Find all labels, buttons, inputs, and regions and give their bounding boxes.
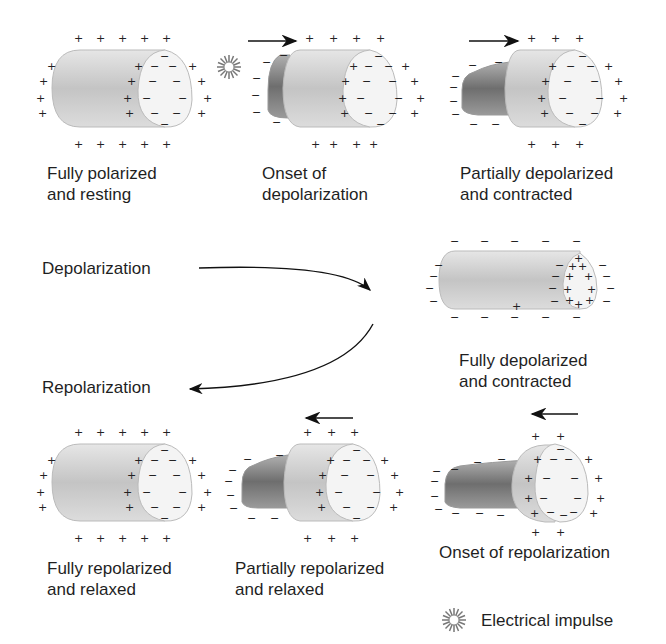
label-fully-depolarized: Fully depolarizedand contracted [459, 350, 588, 392]
svg-text:−: − [578, 118, 587, 131]
svg-text:+: + [125, 501, 134, 514]
svg-text:−: − [473, 456, 482, 469]
svg-text:−: − [449, 81, 458, 94]
svg-text:−: − [150, 501, 159, 514]
svg-text:−: − [434, 503, 443, 516]
svg-text:+: + [197, 501, 206, 514]
svg-text:+: + [380, 454, 389, 467]
label-fully-repolarized: Fully repolarizedand relaxed [47, 558, 172, 600]
svg-text:−: − [586, 60, 595, 73]
svg-text:+: + [123, 92, 132, 105]
svg-text:−: − [429, 295, 438, 308]
svg-text:+: + [96, 138, 105, 151]
svg-text:−: − [384, 60, 393, 73]
svg-text:−: − [252, 106, 261, 119]
svg-text:−: − [172, 75, 181, 88]
svg-text:−: − [475, 507, 484, 520]
svg-text:−: − [595, 92, 604, 105]
svg-text:−: − [148, 75, 157, 88]
svg-text:+: + [531, 430, 540, 443]
svg-text:+: + [311, 138, 320, 151]
svg-text:+: + [36, 486, 45, 499]
label-partially-depolarized: Partially depolarizedand contracted [460, 163, 613, 205]
svg-text:−: − [449, 95, 458, 108]
svg-text:−: − [229, 502, 238, 515]
repolarization-arrow [190, 324, 373, 389]
svg-text:−: − [178, 486, 187, 499]
svg-text:−: − [388, 107, 397, 120]
svg-text:−: − [559, 509, 568, 522]
label-fully-polarized: Fully polarizedand resting [47, 163, 157, 205]
svg-text:−: − [565, 107, 574, 120]
svg-text:−: − [573, 492, 582, 505]
label-onset-depolarization: Onset ofdepolarization [262, 163, 368, 205]
svg-text:+: + [96, 532, 105, 545]
svg-text:+: + [369, 138, 378, 151]
svg-text:−: − [550, 295, 559, 308]
svg-text:+: + [512, 300, 521, 313]
svg-text:−: − [430, 490, 439, 503]
svg-text:+: + [329, 138, 338, 151]
svg-text:−: − [270, 512, 279, 525]
svg-text:+: + [376, 32, 385, 45]
svg-text:+: + [556, 526, 565, 539]
svg-text:+: + [416, 92, 425, 105]
starburst-icon [217, 55, 241, 79]
label-partially-repolarized: Partially repolarizedand relaxed [235, 558, 384, 600]
svg-text:+: + [584, 453, 593, 466]
svg-text:+: + [395, 486, 404, 499]
svg-text:−: − [510, 235, 519, 248]
label-repolarization: Repolarization [42, 377, 151, 398]
svg-text:−: − [366, 469, 375, 482]
svg-text:−: − [340, 469, 349, 482]
svg-text:+: + [327, 532, 336, 545]
svg-text:+: + [118, 32, 127, 45]
cell-fully-polarized: +++++ +++++ ++++ ++++ ++++ −−− −−−− −−− [36, 32, 212, 151]
svg-text:+: + [134, 60, 143, 73]
cell-onset-depolarization: ++++ ++++ −−−−−− ++++ ++++ −−− −−−− −−− [248, 32, 425, 151]
svg-text:−: − [549, 453, 558, 466]
svg-text:+: + [38, 107, 47, 120]
svg-text:+: + [162, 138, 171, 151]
svg-text:+: + [188, 60, 197, 73]
svg-text:−: − [451, 108, 460, 121]
svg-text:+: + [203, 486, 212, 499]
svg-text:−: − [178, 92, 187, 105]
svg-text:−: − [372, 486, 381, 499]
svg-text:+: + [118, 138, 127, 151]
svg-text:−: − [497, 453, 506, 466]
svg-text:+: + [614, 75, 623, 88]
svg-text:+: + [349, 60, 358, 73]
svg-text:+: + [584, 270, 593, 283]
svg-text:−: − [546, 506, 555, 519]
cell-onset-repolarization: ++ ++ −−− −−− −−−− ++++ ++++ −−− −−−− −−… [430, 414, 605, 539]
svg-text:+: + [350, 426, 359, 439]
svg-text:−: − [160, 118, 169, 131]
svg-text:+: + [524, 472, 533, 485]
svg-text:+: + [527, 32, 536, 45]
svg-text:−: − [279, 49, 288, 62]
svg-text:+: + [118, 532, 127, 545]
svg-text:−: − [160, 512, 169, 525]
svg-text:−: − [243, 453, 252, 466]
svg-text:−: − [548, 282, 557, 295]
svg-text:−: − [150, 454, 159, 467]
svg-text:+: + [326, 454, 335, 467]
svg-text:−: − [362, 454, 371, 467]
svg-text:+: + [565, 270, 574, 283]
svg-text:+: + [338, 92, 347, 105]
svg-text:−: − [252, 72, 261, 85]
svg-text:−: − [364, 107, 373, 120]
svg-text:−: − [352, 512, 361, 525]
svg-text:−: − [275, 449, 284, 462]
svg-text:−: − [480, 235, 489, 248]
svg-text:+: + [575, 138, 584, 151]
svg-text:−: − [394, 92, 403, 105]
svg-text:−: − [450, 235, 459, 248]
svg-text:−: − [262, 56, 271, 69]
svg-text:+: + [596, 492, 605, 505]
svg-text:+: + [574, 298, 583, 311]
svg-text:+: + [329, 32, 338, 45]
svg-text:−: − [142, 92, 151, 105]
svg-text:+: + [551, 32, 560, 45]
